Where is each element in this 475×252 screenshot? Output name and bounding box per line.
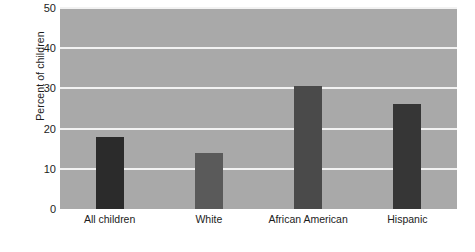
y-tick-label: 10 (30, 163, 56, 175)
plot-area (60, 8, 457, 209)
gridline (60, 47, 457, 49)
bar (294, 86, 322, 209)
gridline (60, 7, 457, 9)
gridline (60, 87, 457, 89)
y-tick-label: 30 (30, 82, 56, 94)
y-tick-label: 20 (30, 123, 56, 135)
bar-chart-figure: Percent of children 01020304050 All chil… (0, 0, 475, 252)
x-tick-label: Hispanic (387, 213, 427, 225)
x-tick-label: African American (268, 213, 347, 225)
bar (393, 104, 421, 209)
bar (96, 137, 124, 209)
x-tick-label: All children (84, 213, 135, 225)
x-axis-tick-labels: All childrenWhiteAfrican AmericanHispani… (60, 213, 457, 233)
y-tick-label: 40 (30, 42, 56, 54)
x-tick-label: White (195, 213, 222, 225)
y-tick-label: 50 (30, 2, 56, 14)
y-axis-tick-labels: 01020304050 (28, 0, 56, 252)
bar (195, 153, 223, 209)
y-tick-label: 0 (30, 203, 56, 215)
